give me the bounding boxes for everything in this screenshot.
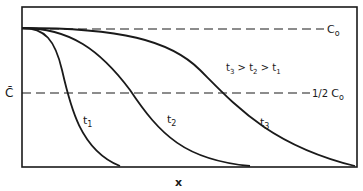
curve-t2 bbox=[22, 28, 250, 166]
t1-curve-label: t1 bbox=[83, 114, 92, 129]
y-axis-label: C̄ bbox=[5, 86, 13, 100]
time-ordering-annotation: t3 > t2 > t1 bbox=[226, 62, 281, 76]
x-axis-label: x bbox=[175, 176, 182, 189]
half-c0-label: 1/2 Co bbox=[312, 87, 344, 102]
diffusion-profile-diagram: Co 1/2 Co t1 t2 t3 t3 > t2 > t1 C̄ x bbox=[0, 0, 363, 191]
plot-frame bbox=[22, 7, 357, 167]
curve-t3 bbox=[22, 28, 355, 166]
curve-t1 bbox=[22, 28, 120, 166]
t2-curve-label: t2 bbox=[167, 113, 176, 128]
c0-label: Co bbox=[327, 23, 340, 38]
t3-curve-label: t3 bbox=[260, 116, 269, 131]
